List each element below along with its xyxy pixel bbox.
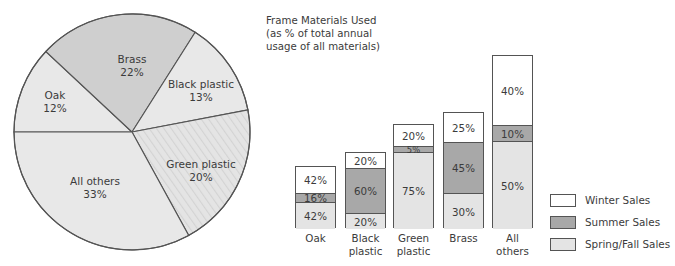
bar-all-others-spring: 50%: [493, 142, 532, 229]
legend-item-summer: Summer Sales: [550, 212, 670, 232]
bar-black-plastic: 20% 60% 20%: [345, 152, 386, 228]
bar-all-others: 40% 10% 50%: [492, 55, 533, 228]
bar-category-label-all-others-line-1: All: [482, 232, 543, 245]
bar-black-plastic-winter: 20%: [346, 153, 385, 168]
bar-oak-summer: 16%: [296, 193, 335, 203]
bar-green-plastic-winter: 20%: [394, 125, 433, 146]
bar-green-plastic-summer: 5%: [394, 146, 433, 153]
legend-swatch-spring-fall-icon: [550, 238, 576, 251]
bar-brass-winter: 25%: [444, 113, 483, 142]
legend-label-spring-fall: Spring/Fall Sales: [585, 238, 670, 250]
legend-swatch-summer-icon: [550, 216, 576, 229]
figure-root: Brass 22% Black plastic 13% Green plasti…: [0, 0, 675, 266]
bar-oak-winter: 42%: [296, 167, 335, 193]
bar-black-plastic-summer: 60%: [346, 168, 385, 214]
bar-brass-spring: 30%: [444, 194, 483, 229]
legend-swatch-winter-icon: [550, 194, 576, 207]
bar-all-others-summer: 10%: [493, 125, 532, 142]
legend: Winter Sales Summer Sales Spring/Fall Sa…: [550, 190, 670, 256]
legend-item-spring-fall: Spring/Fall Sales: [550, 234, 670, 254]
bar-category-label-all-others: All others: [482, 232, 543, 257]
bar-green-plastic: 20% 5% 75%: [393, 124, 434, 228]
bar-all-others-winter: 40%: [493, 56, 532, 125]
bar-green-plastic-spring: 75%: [394, 153, 433, 229]
bar-category-label-green-plastic-line-2: plastic: [383, 245, 444, 258]
legend-item-winter: Winter Sales: [550, 190, 670, 210]
bar-brass: 25% 45% 30%: [443, 112, 484, 228]
bar-black-plastic-spring: 20%: [346, 214, 385, 229]
bar-oak: 42% 16% 42%: [295, 166, 336, 228]
legend-label-winter: Winter Sales: [585, 194, 650, 206]
legend-label-summer: Summer Sales: [585, 216, 660, 228]
bar-brass-summer: 45%: [444, 142, 483, 194]
bar-category-label-all-others-line-2: others: [482, 245, 543, 258]
bar-oak-spring: 42%: [296, 203, 335, 229]
